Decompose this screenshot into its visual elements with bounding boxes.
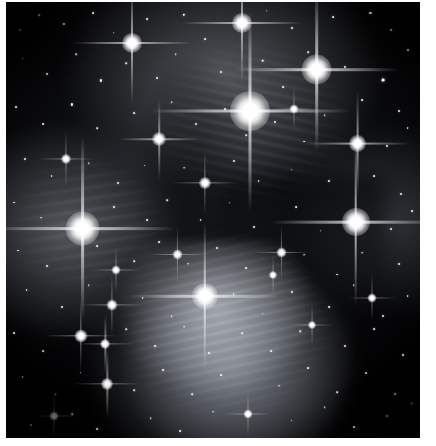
field-star xyxy=(96,245,98,247)
nebula-striations-lower xyxy=(97,229,379,438)
field-star xyxy=(361,252,363,254)
diffraction-spike-vertical xyxy=(177,227,178,282)
field-star xyxy=(158,241,160,243)
field-star xyxy=(88,163,90,165)
diffraction-spike-horizontal xyxy=(348,298,396,299)
field-star xyxy=(225,108,227,110)
field-star xyxy=(179,431,181,433)
field-star xyxy=(258,180,260,182)
field-star xyxy=(63,23,65,25)
field-star xyxy=(71,413,73,415)
field-star xyxy=(324,407,326,409)
field-star xyxy=(61,306,63,308)
field-star xyxy=(42,123,44,125)
nebula-striations-upper xyxy=(147,11,379,212)
field-star xyxy=(125,328,127,330)
field-star xyxy=(200,219,202,221)
dust-lane-diagonal xyxy=(97,37,287,316)
field-star xyxy=(125,62,127,64)
field-star xyxy=(204,38,206,40)
field-star xyxy=(208,352,210,354)
bright-star-hd23873 xyxy=(76,315,134,373)
diffraction-spike-vertical xyxy=(204,221,206,371)
field-star xyxy=(216,247,218,249)
bright-star-hd23608 xyxy=(81,274,143,336)
field-star xyxy=(398,110,400,112)
field-star xyxy=(171,315,173,317)
field-star xyxy=(22,58,24,60)
field-star xyxy=(336,274,338,276)
field-star xyxy=(113,32,115,34)
field-star xyxy=(382,315,384,317)
diffraction-spike-vertical xyxy=(65,131,66,187)
bright-star-hd23325 xyxy=(348,274,396,322)
diffraction-spike-vertical xyxy=(107,350,108,418)
field-star xyxy=(154,346,156,348)
field-star xyxy=(332,16,334,18)
field-star xyxy=(324,115,326,117)
diffraction-spike-horizontal xyxy=(182,22,302,24)
bright-star-celaeno xyxy=(119,99,199,179)
star-core xyxy=(106,300,117,311)
field-star xyxy=(212,411,214,413)
star-core xyxy=(276,248,286,258)
field-star xyxy=(40,217,42,219)
field-star xyxy=(394,393,396,395)
field-star xyxy=(96,128,98,130)
field-star xyxy=(328,180,330,182)
field-star xyxy=(353,426,355,428)
field-star xyxy=(253,226,255,228)
diffraction-spike-horizontal xyxy=(38,158,94,159)
dust-lane-lower-right xyxy=(221,176,387,377)
field-star xyxy=(390,228,392,230)
star-core xyxy=(61,154,71,164)
field-star xyxy=(55,394,57,396)
field-star xyxy=(233,160,235,162)
field-star xyxy=(171,101,173,103)
field-star xyxy=(241,333,243,335)
bright-star-hd23924 xyxy=(150,227,205,282)
field-star xyxy=(76,54,78,56)
bright-star-hd23629 xyxy=(172,150,238,216)
diffraction-spike-vertical xyxy=(293,86,294,132)
bright-star-hd23512 xyxy=(73,350,141,418)
field-star xyxy=(381,79,384,82)
diffraction-spike-vertical xyxy=(357,91,359,196)
corner-vignette xyxy=(6,2,420,438)
field-star xyxy=(183,326,185,328)
field-star xyxy=(22,376,24,378)
star-core xyxy=(66,212,100,246)
field-star xyxy=(71,103,73,105)
diffraction-spike-horizontal xyxy=(234,68,399,71)
bright-star-taygeta xyxy=(72,2,192,103)
field-star xyxy=(400,193,402,195)
field-star xyxy=(291,169,293,171)
field-star xyxy=(291,27,293,29)
field-star xyxy=(133,112,135,114)
field-star xyxy=(245,134,247,136)
field-star xyxy=(274,121,276,123)
field-star xyxy=(233,293,235,295)
field-star xyxy=(167,200,169,202)
diffraction-spike-vertical xyxy=(111,274,112,336)
diffraction-spike-vertical xyxy=(281,225,282,280)
field-star xyxy=(386,145,388,147)
diffraction-spike-horizontal xyxy=(172,182,238,183)
field-star xyxy=(15,106,17,108)
field-star xyxy=(374,328,376,330)
field-star xyxy=(402,354,404,356)
diffraction-spike-vertical xyxy=(241,2,243,83)
diffraction-spike-vertical xyxy=(315,2,318,152)
star-core xyxy=(173,250,183,260)
field-star xyxy=(150,418,152,420)
field-star xyxy=(13,202,15,204)
nebulosity-global-glow xyxy=(6,2,420,438)
field-star xyxy=(307,367,309,369)
bright-star-hd23061 xyxy=(31,393,77,438)
field-star xyxy=(18,250,20,252)
field-star xyxy=(411,210,413,212)
bright-star-asterope xyxy=(305,91,410,196)
bright-star-maia xyxy=(271,137,420,307)
diffraction-spike-horizontal xyxy=(6,227,175,230)
diffraction-spike-vertical xyxy=(80,299,81,373)
